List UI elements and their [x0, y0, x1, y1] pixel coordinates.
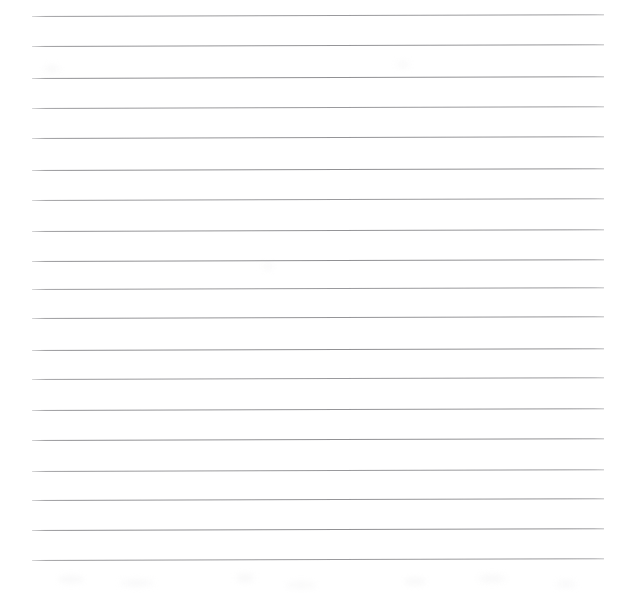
- scan-artifact: [478, 575, 506, 582]
- scan-artifact: [396, 62, 410, 67]
- scan-artifact: [44, 66, 60, 72]
- scan-artifact: [404, 578, 426, 585]
- scan-artifact: [286, 582, 316, 588]
- scanned-page: [0, 0, 635, 593]
- scan-artifact: [120, 580, 154, 586]
- scan-artifact: [58, 576, 84, 583]
- paper-surface: [0, 0, 635, 593]
- scan-artifact: [556, 581, 576, 587]
- scan-artifact: [236, 574, 254, 582]
- scan-artifact: [262, 264, 274, 269]
